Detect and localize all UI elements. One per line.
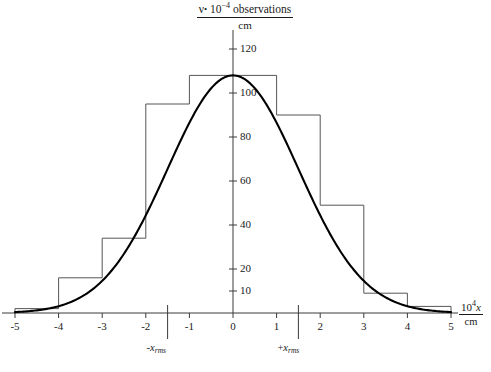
x-axis-tick-label: -3: [91, 320, 113, 332]
y-axis-tick-label: 10: [240, 284, 251, 296]
x-axis-tick-label: 0: [222, 320, 244, 332]
x-axis-tick-label: 5: [440, 320, 462, 332]
y-axis-tick-label: 80: [240, 130, 251, 142]
x-axis-tick-label: 1: [266, 320, 288, 332]
x-axis-tick-label: -5: [4, 320, 26, 332]
gaussian-distribution-figure: ν• 10−4 observations cm 104x cm -xrms +x…: [0, 0, 491, 372]
x-axis-tick-label: -2: [135, 320, 157, 332]
y-axis-tick-label: 100: [240, 86, 257, 98]
x-axis-tick-label: -4: [48, 320, 70, 332]
plot-canvas: [0, 0, 491, 372]
x-axis-tick-label: 4: [396, 320, 418, 332]
y-axis-tick-label: 60: [240, 174, 251, 186]
x-axis-tick-label: 2: [309, 320, 331, 332]
y-axis-tick-label: 20: [240, 262, 251, 274]
y-axis-tick-label: 40: [240, 218, 251, 230]
x-axis-tick-label: -1: [178, 320, 200, 332]
y-axis-tick-label: 120: [240, 42, 257, 54]
x-axis-tick-label: 3: [353, 320, 375, 332]
